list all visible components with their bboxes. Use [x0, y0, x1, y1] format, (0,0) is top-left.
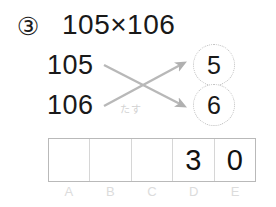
operand-second: 106	[47, 90, 94, 120]
arrow-106-to-5	[104, 63, 184, 106]
circled-digit-bottom: 6	[193, 84, 235, 126]
column-label-a: A	[48, 183, 90, 203]
multiplication-expression: 105×106	[62, 9, 175, 41]
answer-table: 3 0	[48, 138, 256, 182]
answer-column-labels: A B C D E	[48, 183, 256, 203]
column-label-c: C	[131, 183, 173, 203]
answer-cell-b[interactable]	[90, 139, 131, 181]
arrow-105-to-6	[104, 65, 184, 106]
operand-first: 105	[47, 50, 94, 80]
answer-cell-d[interactable]: 3	[173, 139, 214, 181]
column-label-d: D	[173, 183, 215, 203]
answer-cell-e[interactable]: 0	[215, 139, 255, 181]
answer-cell-c[interactable]	[132, 139, 173, 181]
worksheet-canvas: ③ 105×106 105 106 たす 5 6 3 0 A B C D E	[0, 0, 276, 207]
question-number-marker: ③	[14, 12, 42, 40]
add-annotation-label: たす	[120, 104, 141, 116]
column-label-b: B	[90, 183, 132, 203]
answer-cell-a[interactable]	[49, 139, 90, 181]
column-label-e: E	[214, 183, 256, 203]
circled-digit-top: 5	[193, 44, 235, 86]
